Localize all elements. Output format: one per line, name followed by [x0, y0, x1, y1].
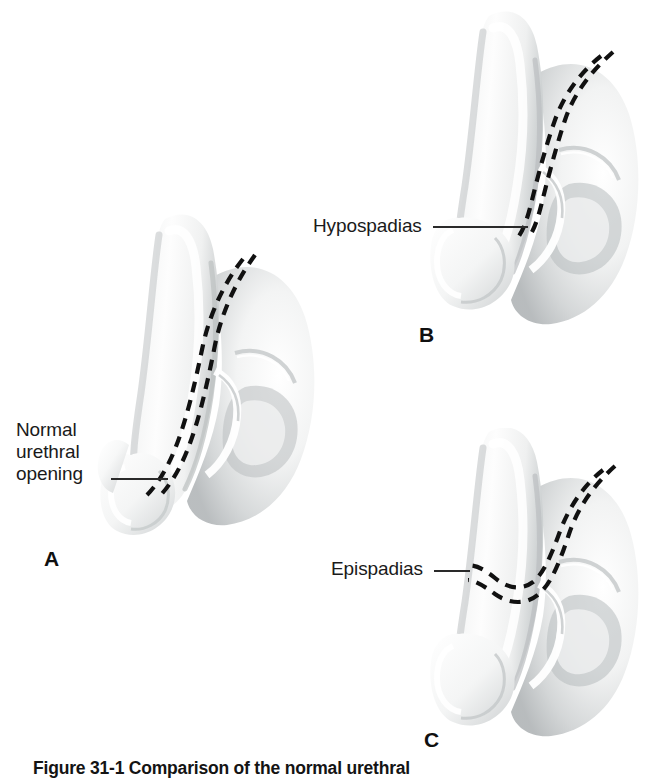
label-normal-urethral-opening: Normal [16, 419, 77, 441]
panel-letter-a: A [44, 547, 59, 571]
label-hypospadias: Hypospadias [313, 215, 422, 237]
leader-line-epispadias [434, 570, 470, 572]
panel-a [95, 205, 325, 535]
panel-c [425, 428, 646, 738]
figure-caption: Figure 31-1 Comparison of the normal ure… [33, 757, 633, 779]
label-normal-urethral-opening-line2: urethral [16, 441, 80, 463]
panel-b [425, 8, 646, 328]
label-normal-urethral-opening-line3: opening [16, 463, 83, 485]
panel-c-anatomy [425, 428, 646, 738]
panel-a-anatomy [95, 205, 325, 535]
label-epispadias: Epispadias [331, 558, 423, 580]
panel-letter-b: B [419, 323, 434, 347]
figure-illustration: Normal urethral opening A [0, 0, 646, 779]
panel-letter-c: C [424, 728, 439, 752]
leader-line-normal-opening [111, 478, 168, 480]
leader-line-hypospadias [433, 226, 528, 228]
panel-b-anatomy [425, 8, 646, 328]
